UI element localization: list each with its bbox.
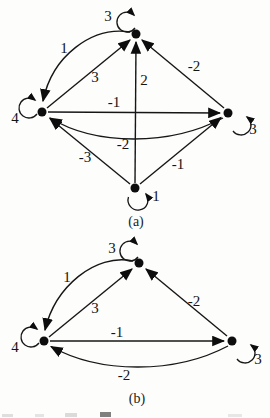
graph-a-loop-label-right: 3	[249, 121, 257, 137]
graph-b-edge-right-to-left	[51, 346, 228, 367]
graph-b-node-top	[135, 259, 144, 268]
graph-a-self-loop-top	[117, 12, 135, 32]
graph-b-loop-label-top: 3	[108, 240, 116, 256]
graph-b-self-loop-top	[120, 241, 138, 261]
graph-b-edge-right-to-top	[146, 269, 227, 336]
graph-a-caption: (a)	[128, 214, 144, 230]
graph-b-node-left	[40, 337, 49, 346]
graph-b-loop-label-left: 4	[11, 339, 19, 355]
graph-b-edge-top-to-left	[45, 260, 133, 330]
graph-a-self-loop-left	[19, 98, 37, 118]
graph-b-caption: (b)	[129, 391, 146, 407]
graph-a-edge-right-to-top	[142, 40, 224, 108]
graph-b-edge-label-top-to-left: 1	[63, 269, 71, 285]
graph-a-node-bottom	[131, 184, 140, 193]
graph-a-edge-label-right-to-top: -2	[188, 58, 201, 74]
graph-a: 3 4 3 1 1 3 2 -2 -1 -2 -3 -1 (a)	[11, 8, 257, 230]
graph-a-edge-label-left-to-top: 3	[91, 69, 99, 85]
graph-b-edge-label-left-to-right: -1	[111, 324, 124, 340]
graph-b-self-loop-left	[21, 327, 39, 347]
graph-a-node-left	[38, 108, 47, 117]
graph-a-edge-left-to-right	[48, 112, 220, 113]
graph-a-node-right	[224, 109, 233, 118]
graph-a-edge-bottom-to-right	[140, 118, 221, 185]
graph-b-edge-label-right-to-left: -2	[118, 367, 131, 383]
graph-a-loop-label-top: 3	[104, 8, 112, 24]
graph-b: 3 4 3 1 3 -2 -1 -2 (b)	[11, 240, 262, 407]
graph-a-node-top	[132, 30, 141, 39]
scanned-figure-page: 3 4 3 1 1 3 2 -2 -1 -2 -3 -1 (a)	[0, 0, 270, 418]
graph-a-edge-label-right-to-left: -2	[117, 136, 130, 152]
graph-b-edge-label-left-to-top: 3	[91, 300, 99, 316]
graph-a-edge-label-bottom-to-right: -1	[172, 156, 185, 172]
graph-a-edge-label-top-to-left: 1	[60, 40, 68, 56]
graph-a-edge-right-to-left	[50, 118, 223, 139]
weighted-digraph-figure: 3 4 3 1 1 3 2 -2 -1 -2 -3 -1 (a)	[0, 0, 270, 418]
graph-a-self-loop-bottom	[128, 194, 148, 210]
graph-a-loop-label-left: 4	[11, 110, 19, 126]
graph-a-edge-label-left-to-right: -1	[108, 94, 121, 110]
graph-b-edge-label-right-to-top: -2	[188, 293, 201, 309]
graph-a-loop-label-bottom: 1	[152, 188, 160, 204]
graph-a-edge-top-to-left	[43, 31, 130, 101]
graph-a-edge-label-bottom-to-left: -3	[79, 149, 92, 165]
graph-a-edge-label-bottom-to-top: 2	[140, 72, 148, 88]
graph-b-node-right	[228, 337, 237, 346]
graph-b-loop-label-right: 3	[254, 351, 262, 367]
graph-b-self-loop-right	[237, 345, 255, 363]
